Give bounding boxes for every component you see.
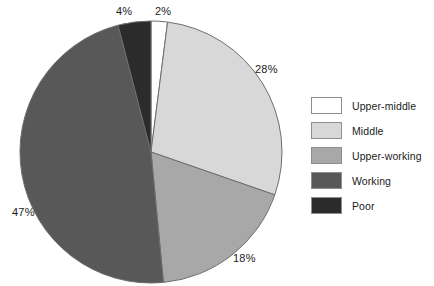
pie-label-working-pct: 47%	[12, 206, 35, 218]
legend-label-poor: Poor	[352, 200, 375, 212]
legend-label-working: Working	[352, 175, 391, 187]
pie-chart: 4% 2% 28% 18% 47% Upper-middle Middle Up…	[0, 0, 434, 286]
pie-slices	[20, 21, 282, 283]
chart-legend: Upper-middle Middle Upper-working Workin…	[311, 93, 431, 218]
pie-label-middle-pct: 28%	[255, 63, 278, 75]
legend-swatch-middle	[311, 122, 342, 139]
pie-label-upper-middle-pct: 2%	[155, 5, 171, 17]
legend-swatch-upper-working	[311, 147, 342, 164]
legend-item-poor[interactable]: Poor	[311, 193, 431, 218]
pie-label-upper-working-pct: 18%	[233, 252, 256, 264]
legend-item-working[interactable]: Working	[311, 168, 431, 193]
legend-label-upper-middle: Upper-middle	[352, 100, 416, 112]
legend-label-upper-working: Upper-working	[352, 150, 422, 162]
legend-swatch-working	[311, 172, 342, 189]
pie-label-poor-pct: 4%	[116, 5, 132, 17]
legend-item-middle[interactable]: Middle	[311, 118, 431, 143]
legend-swatch-upper-middle	[311, 97, 342, 114]
legend-item-upper-working[interactable]: Upper-working	[311, 143, 431, 168]
legend-label-middle: Middle	[352, 125, 384, 137]
legend-swatch-poor	[311, 197, 342, 214]
legend-item-upper-middle[interactable]: Upper-middle	[311, 93, 431, 118]
